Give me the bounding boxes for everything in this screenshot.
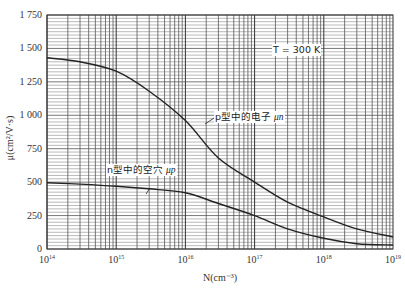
temperature-text: T = 300 K	[273, 44, 320, 55]
hole-label-text: n型中的空穴	[107, 164, 166, 175]
x-tick-label: 1018	[316, 255, 332, 265]
y-tick-label: 1 250	[20, 77, 43, 87]
electron-label-text: p型中的电子	[215, 111, 274, 122]
hole-symbol: μp	[166, 165, 176, 175]
x-tick-label: 1016	[177, 255, 193, 265]
electron-mobility-curve	[47, 58, 393, 237]
y-tick-label: 250	[27, 211, 42, 221]
x-axis-label: N(cm⁻³)	[203, 272, 237, 283]
electron-symbol: μn	[274, 112, 284, 122]
y-tick-label: 1 500	[20, 43, 43, 53]
y-tick-label: 500	[27, 177, 42, 187]
mobility-chart	[0, 0, 405, 291]
y-tick-label: 1 750	[20, 10, 43, 20]
x-tick-label: 1017	[247, 255, 263, 265]
y-axis-label: μ(cm²/V·s)	[4, 116, 15, 160]
x-tick-label: 1014	[39, 255, 55, 265]
electron-curve-label: p型中的电子 μn	[214, 111, 285, 123]
y-tick-label: 1 000	[20, 110, 43, 120]
hole-curve-label: n型中的空穴 μp	[106, 164, 177, 176]
temperature-label: T = 300 K	[272, 44, 321, 56]
x-tick-label: 1015	[108, 255, 124, 265]
y-tick-label: 0	[37, 244, 42, 254]
horizontal-gridlines	[47, 15, 393, 249]
y-tick-label: 750	[27, 144, 42, 154]
x-tick-label: 1019	[385, 255, 401, 265]
